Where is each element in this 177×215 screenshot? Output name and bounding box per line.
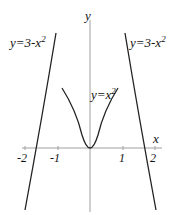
left-curve-label: y=3-x2 bbox=[8, 34, 46, 50]
parabola-label: y=x2 bbox=[89, 86, 116, 102]
right-curve-label: y=3-x2 bbox=[128, 34, 166, 50]
tick-label-neg2: -2 bbox=[17, 151, 27, 165]
tick-label-neg1: -1 bbox=[50, 151, 60, 165]
x-axis-label: x bbox=[152, 131, 159, 146]
y-axis-label: y bbox=[83, 8, 91, 23]
right-branch-curve bbox=[125, 33, 156, 210]
tick-label-pos1: 1 bbox=[119, 151, 125, 165]
tick-label-pos2: 2 bbox=[150, 151, 156, 165]
left-branch-curve bbox=[25, 33, 56, 210]
function-plot: y x -2 -1 1 2 y=3-x2 y=3-x2 y=x2 bbox=[0, 0, 177, 215]
